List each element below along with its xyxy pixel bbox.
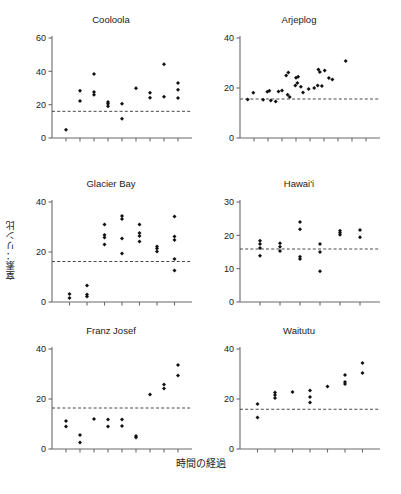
data-point bbox=[284, 74, 288, 78]
y-tick-label: 20 bbox=[36, 100, 46, 110]
data-point bbox=[308, 401, 312, 405]
data-point bbox=[173, 235, 177, 239]
data-point bbox=[246, 98, 250, 102]
data-point bbox=[251, 91, 255, 95]
x-axis-label: 時間の経過 bbox=[0, 455, 401, 470]
y-tick-label: 20 bbox=[224, 83, 234, 93]
data-point bbox=[278, 249, 282, 253]
data-point bbox=[148, 91, 152, 95]
data-point bbox=[312, 86, 316, 90]
caption-fragment bbox=[0, 484, 401, 494]
data-point bbox=[64, 419, 68, 423]
data-point bbox=[78, 89, 82, 93]
data-point bbox=[358, 235, 362, 239]
data-point bbox=[280, 89, 284, 93]
data-point bbox=[106, 104, 110, 108]
data-point bbox=[120, 117, 124, 121]
data-point bbox=[176, 96, 180, 100]
data-point bbox=[106, 425, 110, 429]
y-tick-label: 40 bbox=[36, 67, 46, 77]
data-point bbox=[308, 389, 312, 393]
data-point bbox=[308, 395, 312, 399]
data-point bbox=[138, 223, 142, 227]
data-point bbox=[162, 95, 166, 99]
data-point bbox=[176, 88, 180, 92]
data-point bbox=[103, 243, 107, 247]
data-point bbox=[134, 86, 138, 90]
data-point bbox=[162, 387, 166, 391]
data-point bbox=[274, 100, 278, 104]
data-point bbox=[318, 250, 322, 254]
panel-cooloola: Cooloola 0204060 bbox=[22, 14, 200, 154]
data-point bbox=[138, 234, 142, 238]
data-point bbox=[326, 385, 330, 389]
scatter-plot-waitutu: 02040 bbox=[210, 339, 388, 465]
data-point bbox=[299, 85, 303, 89]
data-point bbox=[277, 90, 281, 94]
y-tick-label: 20 bbox=[36, 247, 46, 257]
data-point bbox=[361, 371, 365, 375]
data-point bbox=[173, 215, 177, 219]
data-point bbox=[318, 242, 322, 246]
scatter-plot-hawai-i: 0102030 bbox=[210, 192, 388, 318]
data-point bbox=[120, 237, 124, 241]
data-point bbox=[68, 296, 72, 300]
y-tick-label: 40 bbox=[224, 344, 234, 354]
data-point bbox=[256, 416, 260, 420]
data-point bbox=[176, 363, 180, 367]
data-point bbox=[358, 228, 362, 232]
data-point bbox=[120, 252, 124, 256]
scatter-plot-cooloola: 0204060 bbox=[22, 28, 200, 154]
data-point bbox=[120, 217, 124, 221]
panel-title-cooloola: Cooloola bbox=[22, 14, 200, 25]
data-point bbox=[106, 418, 110, 422]
y-tick-label: 0 bbox=[41, 297, 46, 307]
panel-waitutu: Waitutu 02040 bbox=[210, 325, 388, 465]
data-point bbox=[173, 238, 177, 242]
data-point bbox=[120, 102, 124, 106]
data-point bbox=[316, 84, 320, 88]
data-point bbox=[261, 98, 265, 102]
data-point bbox=[92, 72, 96, 76]
y-tick-label: 0 bbox=[41, 133, 46, 143]
data-point bbox=[298, 257, 302, 261]
figure-panel-grid: 窒素：リン比 Cooloola 0204060 Arjeplog 02040 G… bbox=[0, 0, 401, 494]
panel-glacier-bay: Glacier Bay 02040 bbox=[22, 178, 200, 318]
y-axis-label: 窒素：リン比 bbox=[4, 220, 18, 280]
data-point bbox=[78, 441, 82, 445]
y-tick-label: 20 bbox=[224, 394, 234, 404]
data-point bbox=[323, 69, 327, 73]
data-point bbox=[92, 417, 96, 421]
data-point bbox=[68, 292, 72, 296]
data-point bbox=[298, 220, 302, 224]
y-tick-label: 30 bbox=[224, 197, 234, 207]
y-tick-label: 0 bbox=[41, 444, 46, 454]
data-point bbox=[85, 295, 89, 299]
data-point bbox=[162, 383, 166, 387]
data-point bbox=[64, 128, 68, 132]
data-point bbox=[307, 87, 311, 91]
y-axis-label-container: 窒素：リン比 bbox=[0, 175, 22, 325]
panel-hawaii: Hawai'i 0102030 bbox=[210, 178, 388, 318]
data-point bbox=[258, 242, 262, 246]
data-point bbox=[176, 374, 180, 378]
data-point bbox=[103, 223, 107, 227]
data-point bbox=[258, 254, 262, 258]
y-tick-label: 0 bbox=[229, 133, 234, 143]
data-point bbox=[173, 257, 177, 261]
data-point bbox=[120, 418, 124, 422]
data-point bbox=[278, 245, 282, 249]
data-point bbox=[330, 78, 334, 82]
y-tick-label: 0 bbox=[229, 444, 234, 454]
panel-title-arjeplog: Arjeplog bbox=[210, 14, 388, 25]
scatter-plot-glacier-bay: 02040 bbox=[22, 192, 200, 318]
data-point bbox=[361, 361, 365, 365]
data-point bbox=[173, 269, 177, 273]
panel-title-waitutu: Waitutu bbox=[210, 325, 388, 336]
scatter-plot-franz-josef: 02040 bbox=[22, 339, 200, 465]
data-point bbox=[291, 390, 295, 394]
y-tick-label: 40 bbox=[36, 344, 46, 354]
data-point bbox=[343, 373, 347, 377]
panel-franz-josef: Franz Josef 02040 bbox=[22, 325, 200, 465]
scatter-plot-arjeplog: 02040 bbox=[210, 28, 388, 154]
